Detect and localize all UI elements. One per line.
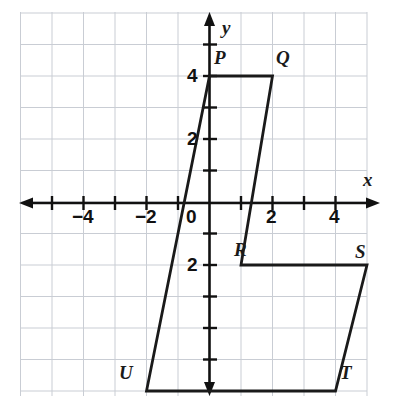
vertex-label-s: S [355,242,366,261]
vertex-label-r: R [234,240,247,259]
x-tick-label-neg2: −2 [135,207,157,226]
y-tick-label-pos2: 2 [187,129,198,148]
vertex-label-u: U [119,363,133,382]
vertex-label-p: P [214,48,226,67]
y-axis-label: y [222,18,230,37]
vertex-label-t: T [340,363,352,382]
y-tick-label-neg2: 2 [187,255,198,274]
x-tick-label-pos2: 2 [266,207,277,226]
coordinate-plane-figure: y x 0 −4 −2 2 4 4 2 2 P Q R S T U [0,0,394,418]
y-tick-label-pos4: 4 [187,66,198,85]
x-axis-label: x [363,170,373,189]
origin-label: 0 [186,207,197,226]
x-tick-label-pos4: 4 [329,207,340,226]
x-tick-label-neg4: −4 [72,207,94,226]
vertex-label-q: Q [276,48,290,67]
